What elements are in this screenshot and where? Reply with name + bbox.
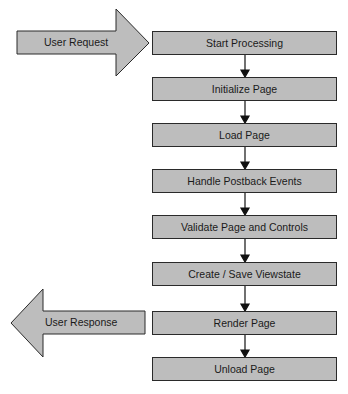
step-load-page: Load Page (152, 123, 337, 147)
step-validate-page-and-controls: Validate Page and Controls (152, 215, 337, 239)
step-initialize-page: Initialize Page (152, 77, 337, 101)
user-response-label: User Response (45, 316, 117, 328)
step-start-processing: Start Processing (152, 31, 337, 55)
step-render-page: Render Page (152, 311, 337, 335)
step-handle-postback-events: Handle Postback Events (152, 169, 337, 193)
user-request-label: User Request (44, 36, 108, 48)
step-unload-page: Unload Page (152, 357, 337, 381)
step-create-save-viewstate: Create / Save Viewstate (152, 262, 337, 286)
